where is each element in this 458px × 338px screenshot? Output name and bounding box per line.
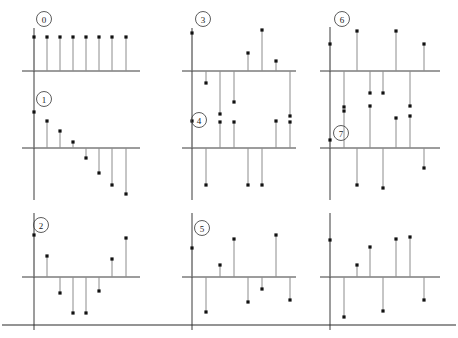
- stem-marker[interactable]: [274, 59, 277, 62]
- figure-canvas: 01234567: [0, 0, 458, 338]
- stem-marker[interactable]: [381, 309, 384, 312]
- stem-marker[interactable]: [58, 35, 61, 38]
- stem-marker[interactable]: [71, 35, 74, 38]
- stem-marker[interactable]: [368, 104, 371, 107]
- stem-marker[interactable]: [204, 183, 207, 186]
- stem-marker[interactable]: [190, 31, 193, 34]
- stem-marker[interactable]: [218, 120, 221, 123]
- stem-marker[interactable]: [232, 237, 235, 240]
- panel-label-text: 3: [201, 15, 206, 25]
- stem-marker[interactable]: [260, 287, 263, 290]
- stem-marker[interactable]: [246, 51, 249, 54]
- stem-marker[interactable]: [218, 263, 221, 266]
- stem-marker[interactable]: [124, 236, 127, 239]
- stem-marker[interactable]: [355, 29, 358, 32]
- stem-marker[interactable]: [328, 238, 331, 241]
- stem-marker[interactable]: [342, 315, 345, 318]
- stem-panel: 7: [320, 84, 440, 200]
- stem-marker[interactable]: [288, 120, 291, 123]
- stem-marker[interactable]: [84, 311, 87, 314]
- panels-group: 01234567: [22, 12, 440, 331]
- stem-marker[interactable]: [342, 105, 345, 108]
- stem-marker[interactable]: [218, 112, 221, 115]
- panel-label-text: 5: [200, 224, 205, 234]
- stem-panel: 6: [320, 12, 440, 109]
- stem-marker[interactable]: [394, 116, 397, 119]
- stem-marker[interactable]: [342, 109, 345, 112]
- stem-panel: 4: [182, 84, 296, 200]
- stem-marker[interactable]: [408, 104, 411, 107]
- stem-marker[interactable]: [408, 235, 411, 238]
- stem-panel: 1: [22, 84, 140, 200]
- stem-marker[interactable]: [97, 35, 100, 38]
- stem-marker[interactable]: [32, 35, 35, 38]
- stem-marker[interactable]: [84, 156, 87, 159]
- stem-marker[interactable]: [45, 119, 48, 122]
- stem-marker[interactable]: [71, 311, 74, 314]
- stem-panel: [320, 213, 440, 330]
- stem-marker[interactable]: [204, 310, 207, 313]
- stem-marker[interactable]: [260, 28, 263, 31]
- stem-marker[interactable]: [422, 42, 425, 45]
- stem-marker[interactable]: [232, 100, 235, 103]
- stem-marker[interactable]: [32, 233, 35, 236]
- stem-marker[interactable]: [190, 246, 193, 249]
- stem-marker[interactable]: [110, 35, 113, 38]
- stem-marker[interactable]: [124, 192, 127, 195]
- stem-panel: 5: [182, 213, 296, 330]
- stem-marker[interactable]: [204, 81, 207, 84]
- stem-marker[interactable]: [246, 300, 249, 303]
- panel-label-text: 0: [42, 15, 47, 25]
- panel-label-text: 2: [39, 221, 44, 231]
- stem-marker[interactable]: [58, 129, 61, 132]
- panel-label-text: 7: [339, 129, 344, 139]
- stem-marker[interactable]: [110, 183, 113, 186]
- stem-marker[interactable]: [97, 289, 100, 292]
- panel-label-text: 1: [42, 95, 47, 105]
- stem-marker[interactable]: [45, 254, 48, 257]
- stem-marker[interactable]: [71, 140, 74, 143]
- stem-marker[interactable]: [408, 114, 411, 117]
- stem-marker[interactable]: [328, 42, 331, 45]
- stem-marker[interactable]: [328, 138, 331, 141]
- stem-marker[interactable]: [368, 245, 371, 248]
- stem-marker[interactable]: [232, 120, 235, 123]
- stem-panel: 2: [22, 213, 140, 330]
- stem-marker[interactable]: [422, 298, 425, 301]
- stem-marker[interactable]: [355, 263, 358, 266]
- stem-panel: 0: [22, 12, 140, 85]
- panel-label-text: 6: [340, 15, 345, 25]
- stem-marker[interactable]: [368, 91, 371, 94]
- stem-plot-grid: 01234567: [0, 0, 458, 338]
- stem-marker[interactable]: [110, 257, 113, 260]
- stem-marker[interactable]: [32, 110, 35, 113]
- stem-marker[interactable]: [260, 183, 263, 186]
- stem-panel: 3: [182, 12, 296, 118]
- stem-marker[interactable]: [381, 186, 384, 189]
- stem-marker[interactable]: [274, 119, 277, 122]
- stem-marker[interactable]: [355, 183, 358, 186]
- stem-marker[interactable]: [394, 237, 397, 240]
- stem-marker[interactable]: [394, 29, 397, 32]
- stem-marker[interactable]: [288, 298, 291, 301]
- stem-marker[interactable]: [124, 35, 127, 38]
- stem-marker[interactable]: [246, 183, 249, 186]
- stem-marker[interactable]: [58, 291, 61, 294]
- stem-marker[interactable]: [45, 35, 48, 38]
- stem-marker[interactable]: [97, 171, 100, 174]
- stem-marker[interactable]: [422, 166, 425, 169]
- stem-marker[interactable]: [274, 233, 277, 236]
- stem-marker[interactable]: [288, 114, 291, 117]
- panel-label-text: 4: [197, 116, 202, 126]
- stem-marker[interactable]: [84, 35, 87, 38]
- stem-marker[interactable]: [381, 91, 384, 94]
